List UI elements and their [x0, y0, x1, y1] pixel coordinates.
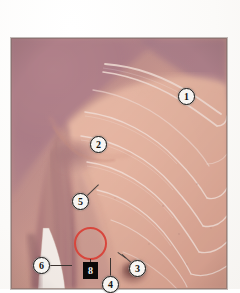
vignette: [11, 38, 227, 289]
callout-2-label: 2: [96, 140, 101, 150]
red-annotation-circle: [74, 227, 107, 260]
callout-4[interactable]: 4: [102, 276, 119, 293]
callout-4-label: 4: [108, 280, 113, 290]
leader-line-callout-4: [110, 258, 111, 276]
anatomical-photograph: [11, 38, 227, 289]
callout-8[interactable]: 8: [83, 262, 98, 279]
callout-3[interactable]: 3: [129, 260, 146, 277]
callout-1[interactable]: 1: [178, 88, 195, 105]
callout-5-label: 5: [78, 197, 83, 207]
callout-5[interactable]: 5: [72, 193, 89, 210]
callout-3-label: 3: [135, 264, 140, 274]
photograph-canvas: [11, 38, 227, 289]
callout-1-label: 1: [184, 92, 189, 102]
callout-6[interactable]: 6: [33, 257, 50, 274]
photo-content: [11, 38, 227, 289]
callout-6-label: 6: [39, 261, 44, 271]
callout-8-label: 8: [88, 266, 93, 276]
leader-line-callout-6: [50, 265, 72, 266]
callout-2[interactable]: 2: [90, 136, 107, 153]
